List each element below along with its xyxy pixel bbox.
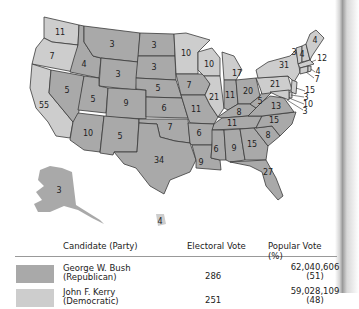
ev-label-al: 9 xyxy=(231,144,236,153)
popular-vote-percent: (51) xyxy=(285,272,345,281)
ev-label-ny: 31 xyxy=(279,61,289,70)
candidate-party: (Democratic) xyxy=(63,297,119,306)
state-fl xyxy=(230,160,283,200)
state-ks xyxy=(146,97,188,118)
democrat-color-swatch xyxy=(16,289,54,307)
ev-label-mt: 3 xyxy=(109,40,114,49)
state-ri xyxy=(308,66,311,72)
ev-label-ms: 6 xyxy=(213,145,218,154)
ev-label-ky: 8 xyxy=(236,108,241,117)
ev-label-hi: 4 xyxy=(157,217,162,226)
ev-label-ct: 7 xyxy=(314,75,319,84)
ev-label-nh: 4 xyxy=(299,50,304,59)
ev-label-pa: 21 xyxy=(270,80,280,89)
ev-label-in: 11 xyxy=(225,91,235,100)
candidate-cell: George W. Bush (Republican) xyxy=(63,264,131,282)
ev-label-ks: 6 xyxy=(161,104,166,113)
state-ak xyxy=(34,166,104,224)
ev-label-ar: 6 xyxy=(196,129,201,138)
states-layer xyxy=(30,17,324,226)
ev-label-mi: 17 xyxy=(232,69,242,78)
ev-label-ma: 12 xyxy=(317,54,327,63)
ev-label-id: 4 xyxy=(81,60,86,69)
ev-label-ok: 7 xyxy=(167,123,172,132)
ev-label-sd: 3 xyxy=(151,63,156,72)
ev-label-ne: 5 xyxy=(155,84,160,93)
header-candidate: Candidate (Party) xyxy=(63,241,138,251)
table-header: Candidate (Party) Electoral Vote Popular… xyxy=(15,236,337,257)
ev-label-oh: 20 xyxy=(243,87,253,96)
table-row-kerry: John F. Kerry (Democratic) 251 59,028,10… xyxy=(15,287,337,309)
ev-label-ut: 5 xyxy=(90,95,95,104)
ev-label-tn: 11 xyxy=(227,119,237,128)
republican-color-swatch xyxy=(16,265,54,283)
ev-label-ga: 15 xyxy=(247,140,257,149)
ev-label-ca: 55 xyxy=(39,101,49,110)
ev-label-wa: 11 xyxy=(55,28,65,37)
ev-label-az: 10 xyxy=(83,129,93,138)
ev-label-fl: 27 xyxy=(263,168,273,177)
table-row-bush: George W. Bush (Republican) 286 62,040,6… xyxy=(15,263,337,285)
ev-label-mo: 11 xyxy=(191,105,201,114)
ev-label-me: 4 xyxy=(312,36,317,45)
popular-vote-cell: 62,040,606 (51) xyxy=(285,263,345,281)
ev-label-il: 21 xyxy=(209,93,219,102)
header-electoral-vote: Electoral Vote xyxy=(187,241,246,251)
ev-label-co: 9 xyxy=(123,99,128,108)
ev-label-dc: 3 xyxy=(302,107,307,116)
ev-label-nd: 3 xyxy=(151,41,156,50)
ev-label-ia: 7 xyxy=(186,81,191,90)
us-electoral-map: 11 7 55 4 5 3 3 5 10 9 5 3 3 5 6 7 34 10… xyxy=(0,0,359,232)
ev-label-sc: 8 xyxy=(265,131,270,140)
ev-label-nm: 5 xyxy=(117,132,122,141)
ev-label-wi: 10 xyxy=(204,60,214,69)
results-table: Candidate (Party) Electoral Vote Popular… xyxy=(15,236,337,309)
candidate-party: (Republican) xyxy=(63,273,131,282)
ev-label-nc: 15 xyxy=(269,116,279,125)
ev-label-mn: 10 xyxy=(181,49,191,58)
ev-label-or: 7 xyxy=(49,52,54,61)
electoral-vote-value: 286 xyxy=(205,271,221,281)
ev-label-vt: 3 xyxy=(291,48,296,57)
ev-label-nv: 5 xyxy=(64,86,69,95)
electoral-vote-value: 251 xyxy=(205,295,221,305)
ev-label-la: 9 xyxy=(198,158,203,167)
ev-label-tx: 34 xyxy=(154,156,164,165)
ev-label-va: 13 xyxy=(271,102,281,111)
ev-label-wy: 3 xyxy=(115,70,120,79)
popular-vote-percent: (48) xyxy=(285,296,345,305)
header-popular-vote: Popular Vote (%) xyxy=(268,241,337,261)
candidate-cell: John F. Kerry (Democratic) xyxy=(63,288,119,306)
popular-vote-cell: 59,028,109 (48) xyxy=(285,287,345,305)
ev-label-wv: 5 xyxy=(257,97,262,106)
ev-label-ak: 3 xyxy=(56,186,61,195)
